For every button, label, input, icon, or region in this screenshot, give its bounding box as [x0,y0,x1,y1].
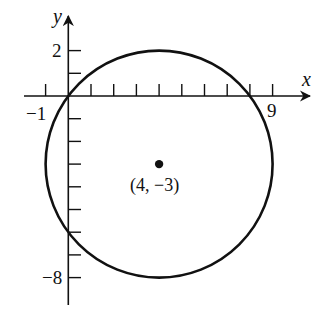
center-point [155,160,163,168]
y-tick-label-neg8: −8 [42,267,62,288]
y-axis-label: y [51,5,62,28]
x-tick-label-neg1: −1 [26,103,46,124]
x-tick-label-9: 9 [267,100,277,121]
center-point-label: (4, −3) [130,175,179,196]
y-tick-label-2: 2 [52,40,62,61]
x-axis-ticks [46,84,273,96]
x-axis-label: x [301,68,311,90]
circle-graph: y x 2 −1 9 −8 (4, −3) [0,0,326,325]
